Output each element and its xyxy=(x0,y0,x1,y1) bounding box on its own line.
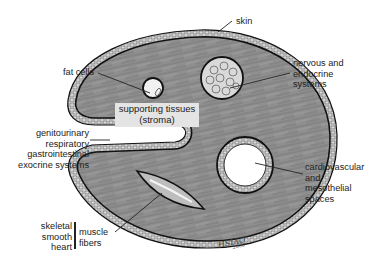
label-cardiovascular-line2: and xyxy=(305,173,364,184)
label-muscle-fibers: muscle fibers xyxy=(79,227,108,248)
label-cardiovascular-line4: spaces xyxy=(305,194,364,205)
label-nervous-line3: systems xyxy=(293,79,344,90)
label-muscle: muscle xyxy=(79,227,108,238)
label-nervous-endocrine: nervous and endocrine systems xyxy=(293,58,344,90)
label-cardiovascular: cardiovascular and mesothelial spaces xyxy=(305,162,364,204)
label-gastrointestinal: gastrointestinal xyxy=(18,149,89,160)
label-supporting-tissues: supporting tissues (stroma) xyxy=(115,103,199,127)
muscle-bracket xyxy=(74,222,76,249)
nervous-endocrine-cluster xyxy=(201,57,243,99)
label-fat-cells: fat cells xyxy=(63,67,94,78)
label-nervous-line1: nervous and xyxy=(293,58,344,69)
label-muscle-types: skeletal smooth heart xyxy=(41,221,72,253)
label-cardiovascular-line1: cardiovascular xyxy=(305,162,364,173)
label-smooth: smooth xyxy=(41,232,72,243)
fat-cell xyxy=(143,78,163,98)
label-respiratory: respiratory xyxy=(18,139,89,150)
label-exocrine-systems: exocrine systems xyxy=(18,160,89,171)
label-skin: skin xyxy=(236,16,252,27)
label-nervous-line2: endocrine xyxy=(293,69,344,80)
label-cardiovascular-line3: mesothelial xyxy=(305,183,364,194)
label-heart: heart xyxy=(41,242,72,253)
label-supporting-tissues-line1: supporting tissues xyxy=(115,103,199,114)
label-supporting-tissues-line2: (stroma) xyxy=(115,114,199,125)
label-skeletal: skeletal xyxy=(41,221,72,232)
label-fibers: fibers xyxy=(79,238,108,249)
label-genitourinary: genitourinary xyxy=(18,128,89,139)
label-epithelial-systems: genitourinary respiratory gastrointestin… xyxy=(18,128,89,170)
